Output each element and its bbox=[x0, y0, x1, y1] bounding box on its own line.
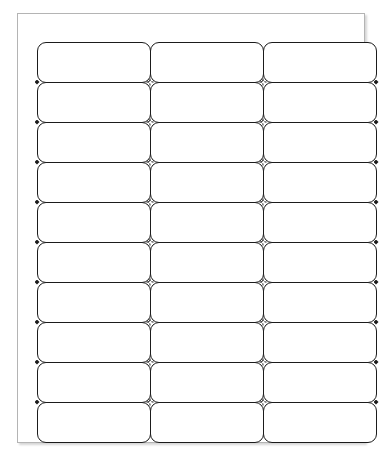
label-cell[interactable] bbox=[37, 282, 151, 323]
label-cell[interactable] bbox=[150, 362, 264, 403]
label-grid bbox=[37, 42, 376, 442]
label-cell[interactable] bbox=[37, 42, 151, 83]
label-cell[interactable] bbox=[150, 282, 264, 323]
label-cell[interactable] bbox=[263, 362, 377, 403]
label-cell[interactable] bbox=[37, 122, 151, 163]
label-cell[interactable] bbox=[150, 202, 264, 243]
label-cell[interactable] bbox=[37, 402, 151, 443]
page-frame bbox=[17, 13, 365, 443]
label-cell[interactable] bbox=[263, 282, 377, 323]
label-cell[interactable] bbox=[263, 322, 377, 363]
label-cell[interactable] bbox=[263, 42, 377, 83]
label-cell[interactable] bbox=[263, 242, 377, 283]
label-cell[interactable] bbox=[150, 242, 264, 283]
label-cell[interactable] bbox=[263, 162, 377, 203]
label-cell[interactable] bbox=[263, 82, 377, 123]
label-cell[interactable] bbox=[37, 242, 151, 283]
label-cell[interactable] bbox=[37, 202, 151, 243]
label-cell[interactable] bbox=[37, 82, 151, 123]
label-cell[interactable] bbox=[150, 82, 264, 123]
label-cell[interactable] bbox=[37, 322, 151, 363]
label-sheet: Blank Label Sheet bbox=[0, 0, 382, 458]
label-cell[interactable] bbox=[150, 322, 264, 363]
label-cell[interactable] bbox=[37, 162, 151, 203]
label-cell[interactable] bbox=[150, 162, 264, 203]
label-cell[interactable] bbox=[263, 202, 377, 243]
label-cell[interactable] bbox=[150, 42, 264, 83]
label-cell[interactable] bbox=[37, 362, 151, 403]
label-cell[interactable] bbox=[263, 402, 377, 443]
label-cell[interactable] bbox=[150, 122, 264, 163]
label-cell[interactable] bbox=[263, 122, 377, 163]
label-cell[interactable] bbox=[150, 402, 264, 443]
